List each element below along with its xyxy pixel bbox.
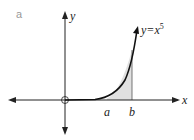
equation-exponent: 5 bbox=[160, 22, 164, 31]
shaded-area bbox=[107, 50, 132, 100]
curve-arrow-icon bbox=[133, 26, 139, 34]
bound-b-label: b bbox=[129, 105, 135, 119]
y-axis-down-arrow-icon bbox=[62, 127, 68, 135]
curve-equation: y=x5 bbox=[140, 22, 164, 37]
integral-diagram: a y x y=x5 a b bbox=[0, 0, 194, 140]
y-axis-label: y bbox=[69, 9, 76, 23]
bound-a-label: a bbox=[104, 105, 110, 119]
x-axis-left-arrow-icon bbox=[8, 97, 16, 103]
equation-lhs: y=x bbox=[140, 23, 160, 37]
x-axis-label: x bbox=[181, 93, 188, 107]
part-label: a bbox=[16, 8, 23, 20]
y-axis-up-arrow-icon bbox=[62, 11, 68, 19]
x-axis-right-arrow-icon bbox=[172, 97, 180, 103]
